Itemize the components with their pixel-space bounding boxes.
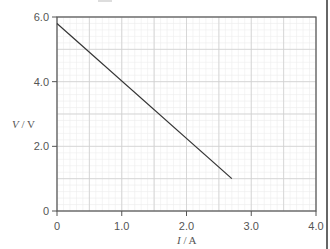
y-tick-label: 2.0 bbox=[34, 140, 49, 152]
x-tick-label: 2.0 bbox=[179, 220, 194, 232]
page-border-line bbox=[326, 0, 328, 249]
y-tick-label: 0 bbox=[43, 205, 49, 217]
x-tick-label: 4.0 bbox=[308, 220, 323, 232]
x-axis-title: I / A bbox=[176, 234, 197, 246]
x-tick-label: 3.0 bbox=[244, 220, 259, 232]
axis-ticks: 01.02.03.04.002.04.06.0 bbox=[34, 11, 324, 232]
y-tick-label: 6.0 bbox=[34, 11, 49, 23]
x-tick-label: 1.0 bbox=[114, 220, 129, 232]
y-tick-label: 4.0 bbox=[34, 76, 49, 88]
voltage-current-chart: 01.02.03.04.002.04.06.0 V / V I / A bbox=[0, 0, 330, 249]
x-tick-label: 0 bbox=[54, 220, 60, 232]
y-axis-title: V / V bbox=[12, 118, 35, 130]
cropped-text-fragment bbox=[98, 0, 112, 2]
